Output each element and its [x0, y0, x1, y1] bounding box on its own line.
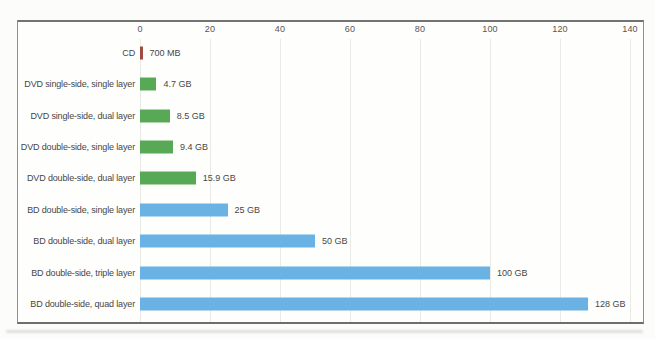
- x-tick-label: 120: [552, 23, 568, 35]
- bar: [140, 109, 170, 122]
- bar: [140, 266, 490, 279]
- bar-row: CD700 MB: [18, 37, 643, 68]
- x-tick-label: 100: [482, 23, 498, 35]
- bar-rows: CD700 MBDVD single-side, single layer4.7…: [18, 37, 643, 320]
- bar: [140, 203, 228, 216]
- value-label: 8.5 GB: [177, 111, 205, 121]
- bar: [140, 172, 196, 185]
- bar: [140, 235, 315, 248]
- value-label: 25 GB: [235, 205, 261, 215]
- x-tick-label: 140: [622, 23, 638, 35]
- category-label: BD double-side, single layer: [18, 205, 135, 215]
- category-label: CD: [18, 48, 135, 58]
- category-label: DVD single-side, single layer: [18, 79, 135, 89]
- bar-row: BD double-side, dual layer50 GB: [18, 226, 643, 257]
- bar: [140, 298, 588, 311]
- x-tick-label: 80: [415, 23, 425, 35]
- category-label: BD double-side, quad layer: [18, 299, 135, 309]
- category-label: BD double-side, triple layer: [18, 268, 135, 278]
- value-label: 9.4 GB: [180, 142, 208, 152]
- value-label: 100 GB: [497, 268, 528, 278]
- x-tick-label: 60: [345, 23, 355, 35]
- x-tick-label: 0: [137, 23, 142, 35]
- bar-row: DVD double-side, single layer9.4 GB: [18, 131, 643, 162]
- bar-row: DVD single-side, dual layer8.5 GB: [18, 100, 643, 131]
- bar-row: BD double-side, triple layer100 GB: [18, 257, 643, 288]
- x-tick-label: 20: [205, 23, 215, 35]
- x-tick-label: 40: [275, 23, 285, 35]
- category-label: DVD double-side, single layer: [18, 142, 135, 152]
- scan-artifact: [6, 330, 643, 333]
- value-label: 15.9 GB: [203, 173, 236, 183]
- bar: [140, 46, 143, 59]
- bar-row: DVD single-side, single layer4.7 GB: [18, 68, 643, 99]
- value-label: 4.7 GB: [163, 79, 191, 89]
- bar-row: BD double-side, quad layer128 GB: [18, 289, 643, 320]
- bar-row: DVD double-side, dual layer15.9 GB: [18, 163, 643, 194]
- category-label: BD double-side, dual layer: [18, 236, 135, 246]
- category-label: DVD single-side, dual layer: [18, 111, 135, 121]
- x-axis-ticks: 020406080100120140: [18, 23, 643, 35]
- value-label: 128 GB: [595, 299, 626, 309]
- bar: [140, 141, 173, 154]
- chart-frame: 020406080100120140 CD700 MBDVD single-si…: [17, 20, 644, 324]
- value-label: 700 MB: [150, 48, 181, 58]
- bar: [140, 78, 156, 91]
- value-label: 50 GB: [322, 236, 348, 246]
- bar-row: BD double-side, single layer25 GB: [18, 194, 643, 225]
- category-label: DVD double-side, dual layer: [18, 173, 135, 183]
